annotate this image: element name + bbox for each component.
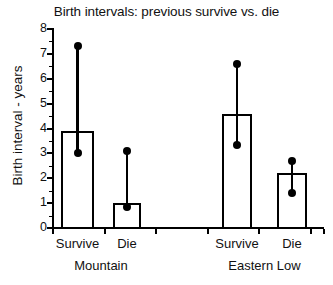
x-tick-0 — [52, 229, 54, 234]
y-tick-label-1: 1 — [21, 195, 47, 209]
x-tick-2 — [155, 229, 157, 234]
y-tick-label-6: 6 — [21, 71, 47, 85]
x-tick-5 — [310, 229, 312, 234]
y-tick-1 — [47, 202, 52, 204]
error-dot-upper-1 — [123, 147, 131, 155]
error-bar-line-0 — [76, 46, 79, 153]
x-tick-1 — [104, 229, 106, 234]
y-tick-label-0: 0 — [21, 220, 47, 234]
y-tick-label-5: 5 — [21, 96, 47, 110]
y-minor-tick — [49, 141, 52, 142]
y-tick-7 — [47, 53, 52, 55]
y-minor-tick — [49, 66, 52, 67]
y-minor-tick — [49, 166, 52, 167]
x-tick-3 — [207, 229, 209, 234]
y-minor-tick — [49, 91, 52, 92]
error-bar-line-1 — [126, 151, 129, 207]
y-tick-4 — [47, 128, 52, 130]
error-dot-upper-2 — [233, 60, 241, 68]
x-category-label-1: Die — [87, 236, 167, 251]
y-tick-8 — [47, 28, 52, 30]
x-group-label-mountain: Mountain — [41, 258, 161, 273]
error-dot-upper-3 — [288, 157, 296, 165]
y-tick-3 — [47, 152, 52, 154]
y-tick-2 — [47, 177, 52, 179]
y-axis-line — [52, 28, 54, 229]
error-bar-line-2 — [236, 64, 239, 145]
x-tick-6 — [323, 229, 325, 234]
x-tick-4 — [258, 229, 260, 234]
x-category-label-3: Die — [252, 236, 332, 251]
y-tick-label-8: 8 — [21, 21, 47, 35]
y-tick-6 — [47, 78, 52, 80]
chart-title: Birth intervals: previous survive vs. di… — [0, 4, 333, 19]
error-dot-lower-0 — [74, 149, 82, 157]
y-minor-tick — [49, 116, 52, 117]
y-tick-label-4: 4 — [21, 121, 47, 135]
y-tick-label-3: 3 — [21, 145, 47, 159]
y-minor-tick — [49, 191, 52, 192]
y-tick-5 — [47, 103, 52, 105]
error-dot-upper-0 — [74, 42, 82, 50]
y-tick-label-2: 2 — [21, 170, 47, 184]
error-dot-lower-1 — [123, 203, 131, 211]
y-tick-label-7: 7 — [21, 46, 47, 60]
y-minor-tick — [49, 216, 52, 217]
chart-container: Birth intervals: previous survive vs. di… — [0, 0, 333, 285]
error-dot-lower-2 — [233, 141, 241, 149]
x-group-label-eastern-low: Eastern Low — [205, 258, 325, 273]
y-minor-tick — [49, 41, 52, 42]
